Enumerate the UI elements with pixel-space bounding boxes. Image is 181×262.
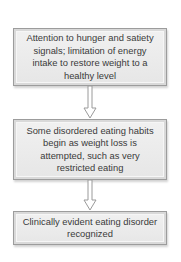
flowchart-step-2: Some disordered eating habits begin as w… xyxy=(13,119,167,180)
step-3-text: Clinically evident eating disorder recog… xyxy=(20,216,160,241)
flowchart-step-3: Clinically evident eating disorder recog… xyxy=(13,211,167,245)
step-2-text: Some disordered eating habits begin as w… xyxy=(20,125,160,175)
down-arrow-icon xyxy=(81,180,99,211)
down-arrow-icon xyxy=(81,86,99,119)
step-1-text: Attention to hunger and satiety signals;… xyxy=(20,32,160,82)
flowchart-step-1: Attention to hunger and satiety signals;… xyxy=(13,28,167,86)
